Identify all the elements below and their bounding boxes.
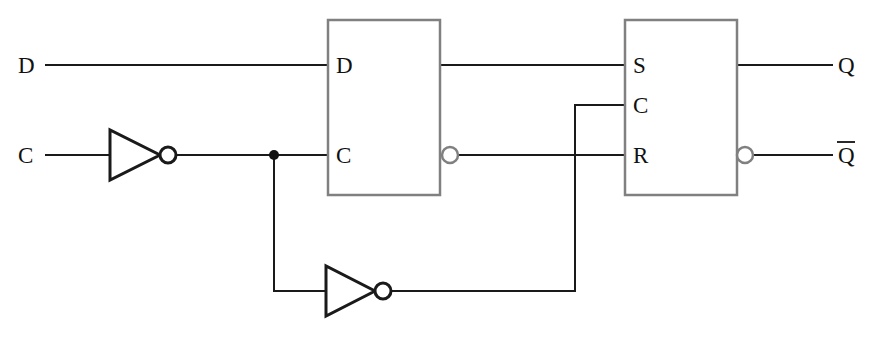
output-label-qbar-group: Q: [837, 142, 855, 168]
input-label-c: C: [18, 143, 33, 168]
inverter-clock-1[interactable]: [110, 130, 176, 180]
inverter-clock-1-bubble-icon: [160, 147, 176, 163]
pin-label-right-s: S: [633, 53, 646, 78]
inverter-clock-2[interactable]: [326, 266, 391, 316]
block-left-latch[interactable]: D C: [328, 20, 458, 195]
output-label-qbar: Q: [838, 143, 855, 168]
pin-label-left-c: C: [336, 143, 351, 168]
junction-clock-tap-dot: [269, 150, 279, 160]
pin-label-right-c: C: [633, 93, 648, 118]
right-latch-nq-bubble-icon: [737, 147, 753, 163]
left-latch-nq-bubble-icon: [442, 147, 458, 163]
inverter-clock-2-bubble-icon: [375, 283, 391, 299]
output-label-q: Q: [838, 53, 855, 78]
pin-label-right-r: R: [633, 143, 649, 168]
inverter-clock-1-triangle-icon: [110, 130, 160, 180]
logic-circuit-svg: D C S C R D C Q Q: [0, 0, 872, 337]
input-label-d: D: [18, 53, 35, 78]
pin-label-left-d: D: [336, 53, 353, 78]
inverter-clock-2-triangle-icon: [326, 266, 375, 316]
block-left-latch-body: [328, 20, 440, 195]
circuit-diagram-canvas: D C S C R D C Q Q: [0, 0, 872, 337]
block-right-latch[interactable]: S C R: [625, 20, 753, 195]
